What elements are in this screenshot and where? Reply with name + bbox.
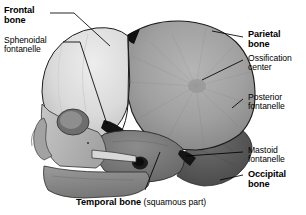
label-mastoid-fontanelle: Mastoid fontanelle (248, 146, 285, 164)
label-ossification-center: Ossification center (248, 54, 292, 72)
label-frontal-bone-line2: bone (4, 16, 34, 26)
label-occipital-bone: Occipital bone (248, 170, 286, 189)
label-posterior-fontanelle: Posterior fontanelle (248, 93, 285, 111)
label-mastoid-fontanelle-line2: fontanelle (248, 155, 285, 164)
label-posterior-fontanelle-line2: fontanelle (248, 102, 285, 111)
neonatal-skull-figure: Frontal bone Sphenoidal fontanelle Parie… (0, 0, 306, 215)
label-occipital-bone-line2: bone (248, 180, 286, 190)
label-sphenoidal-fontanelle-line2: fontanelle (4, 45, 47, 54)
label-parietal-bone: Parietal bone (248, 30, 280, 49)
label-parietal-bone-line2: bone (248, 40, 280, 50)
parietal-bone-region (124, 21, 255, 150)
label-ossification-center-line2: center (248, 63, 292, 72)
label-temporal-bone: Temporal bone (squamous part) (76, 198, 206, 208)
label-temporal-bone-qualifier: (squamous part) (141, 197, 206, 207)
label-temporal-bone-bold: Temporal bone (76, 197, 141, 207)
label-frontal-bone: Frontal bone (4, 6, 34, 25)
label-sphenoidal-fontanelle: Sphenoidal fontanelle (4, 36, 47, 54)
